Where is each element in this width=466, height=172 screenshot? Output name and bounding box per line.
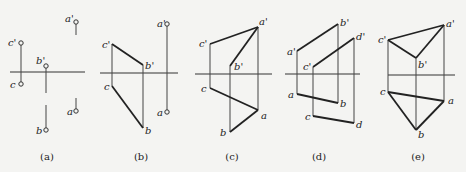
edge-line — [388, 40, 416, 58]
point-label: c — [10, 79, 16, 90]
panel-e: a'c'b'cab(e) — [378, 18, 455, 162]
panel-caption: (d) — [312, 151, 326, 162]
point-marker — [44, 128, 48, 132]
point-label: d — [356, 119, 362, 130]
point-label: c — [104, 81, 110, 92]
edge-line — [388, 92, 416, 130]
panel-caption: (c) — [225, 151, 239, 162]
edge-line — [112, 44, 143, 65]
panel-caption: (b) — [134, 151, 148, 162]
point-label: b — [418, 129, 424, 140]
point-label: b — [220, 127, 226, 138]
point-label: b' — [340, 17, 349, 28]
point-label: b — [145, 125, 151, 136]
point-label: a — [67, 106, 73, 117]
point-label: c' — [8, 37, 16, 48]
point-label: c — [380, 86, 386, 97]
point-label: c' — [378, 34, 386, 45]
panel-d: a'b'd'c'abcd(d) — [285, 17, 365, 162]
point-marker — [74, 109, 78, 113]
edge-line — [313, 116, 354, 123]
edge-line — [112, 86, 143, 128]
point-label: a — [157, 107, 163, 118]
point-label: b' — [145, 60, 154, 71]
point-label: d' — [356, 31, 365, 42]
point-marker — [165, 110, 169, 114]
point-label: b — [36, 125, 42, 136]
projection-diagram: a'c'b'cab(a)a'c'b'cab(b)a'c'b'cab(c)a'b'… — [0, 0, 466, 172]
point-label: c' — [303, 61, 311, 72]
point-label: a — [261, 110, 267, 121]
panel-c: a'c'b'cab(c) — [195, 16, 272, 162]
edge-line — [230, 110, 258, 132]
point-label: c — [305, 111, 311, 122]
point-label: a' — [65, 13, 74, 24]
point-label: b' — [36, 55, 45, 66]
point-label: a' — [287, 46, 296, 57]
point-label: a' — [157, 18, 166, 29]
panel-b: a'c'b'cab(b) — [100, 18, 178, 162]
edge-line — [297, 94, 338, 103]
panel-caption: (e) — [411, 151, 425, 162]
point-label: a — [288, 89, 294, 100]
point-label: a' — [446, 18, 455, 29]
panel-caption: (a) — [40, 151, 54, 162]
point-label: c' — [102, 39, 110, 50]
point-label: a — [448, 95, 454, 106]
point-label: c — [201, 83, 207, 94]
edge-line — [416, 101, 444, 130]
edge-line — [297, 24, 338, 51]
point-label: b' — [418, 59, 427, 70]
point-marker — [74, 20, 78, 24]
point-marker — [19, 82, 23, 86]
point-label: c' — [199, 38, 207, 49]
edge-line — [210, 88, 258, 110]
point-marker — [19, 41, 23, 45]
panel-a: a'c'b'cab(a) — [8, 13, 85, 162]
edge-line — [388, 25, 444, 40]
point-label: a' — [259, 16, 268, 27]
point-label: b' — [234, 61, 243, 72]
edge-line — [313, 38, 354, 67]
edge-line — [416, 25, 444, 58]
point-label: b — [340, 98, 346, 109]
